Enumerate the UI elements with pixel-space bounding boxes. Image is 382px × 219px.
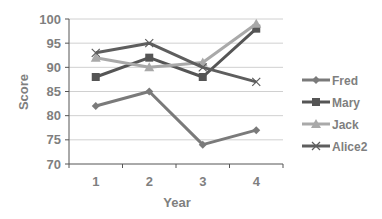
legend-item-mary: Mary xyxy=(302,96,360,110)
diamond-marker-icon xyxy=(252,126,260,134)
legend-label: Alice2 xyxy=(332,140,368,154)
square-marker-icon xyxy=(145,54,153,62)
x-axis-title: Year xyxy=(163,195,190,210)
legend: FredMaryJackAlice2 xyxy=(302,74,368,154)
square-marker-icon xyxy=(92,73,100,81)
x-tick-label: 4 xyxy=(253,174,261,189)
diamond-marker-icon xyxy=(312,76,320,84)
y-axis-ticks: 707580859095100 xyxy=(39,12,69,172)
x-tick-label: 1 xyxy=(92,174,99,189)
y-tick-label: 70 xyxy=(47,157,61,172)
y-tick-label: 95 xyxy=(47,36,61,51)
legend-item-fred: Fred xyxy=(302,74,358,88)
legend-label: Jack xyxy=(332,118,359,132)
triangle-marker-icon xyxy=(251,19,261,28)
series-line xyxy=(96,92,257,145)
square-marker-icon xyxy=(199,73,207,81)
square-marker-icon xyxy=(312,98,320,106)
series-line xyxy=(96,29,257,77)
y-axis-title: Score xyxy=(16,74,31,110)
x-tick-label: 3 xyxy=(199,174,206,189)
legend-item-alice2: Alice2 xyxy=(302,140,368,154)
diamond-marker-icon xyxy=(92,102,100,110)
series-mary xyxy=(92,25,261,81)
x-tick-label: 2 xyxy=(146,174,153,189)
series-jack xyxy=(91,19,262,72)
y-tick-label: 90 xyxy=(47,60,61,75)
line-chart: 707580859095100 1234 Score Year FredMary… xyxy=(0,0,382,219)
series-lines xyxy=(91,19,262,149)
y-tick-label: 80 xyxy=(47,108,61,123)
y-tick-label: 75 xyxy=(47,132,61,147)
series-line xyxy=(96,24,257,68)
legend-label: Fred xyxy=(332,74,358,88)
legend-item-jack: Jack xyxy=(302,118,359,132)
y-tick-label: 85 xyxy=(47,84,61,99)
legend-label: Mary xyxy=(332,96,360,110)
y-tick-label: 100 xyxy=(39,12,61,27)
